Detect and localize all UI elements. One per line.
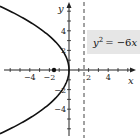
x-axis-label: x — [128, 75, 134, 86]
y-axis-arrow-icon — [67, 2, 72, 8]
x-tick-label: 2 — [86, 73, 91, 82]
x-tick-label: −2 — [44, 73, 56, 82]
y-tick-label: 4 — [61, 27, 66, 36]
y-axis-label: y — [57, 3, 64, 14]
y-tick-label: 2 — [61, 46, 66, 55]
y-tick-label: −2 — [54, 86, 66, 95]
y-tick-label: −4 — [54, 105, 66, 114]
parabola-chart: −4−22442−2−4 x y y2= −6x — [0, 0, 140, 140]
x-axis-arrow-icon — [130, 68, 136, 73]
x-tick-label: −4 — [24, 73, 36, 82]
x-tick-label: 4 — [106, 73, 111, 82]
focus-point — [52, 68, 56, 72]
